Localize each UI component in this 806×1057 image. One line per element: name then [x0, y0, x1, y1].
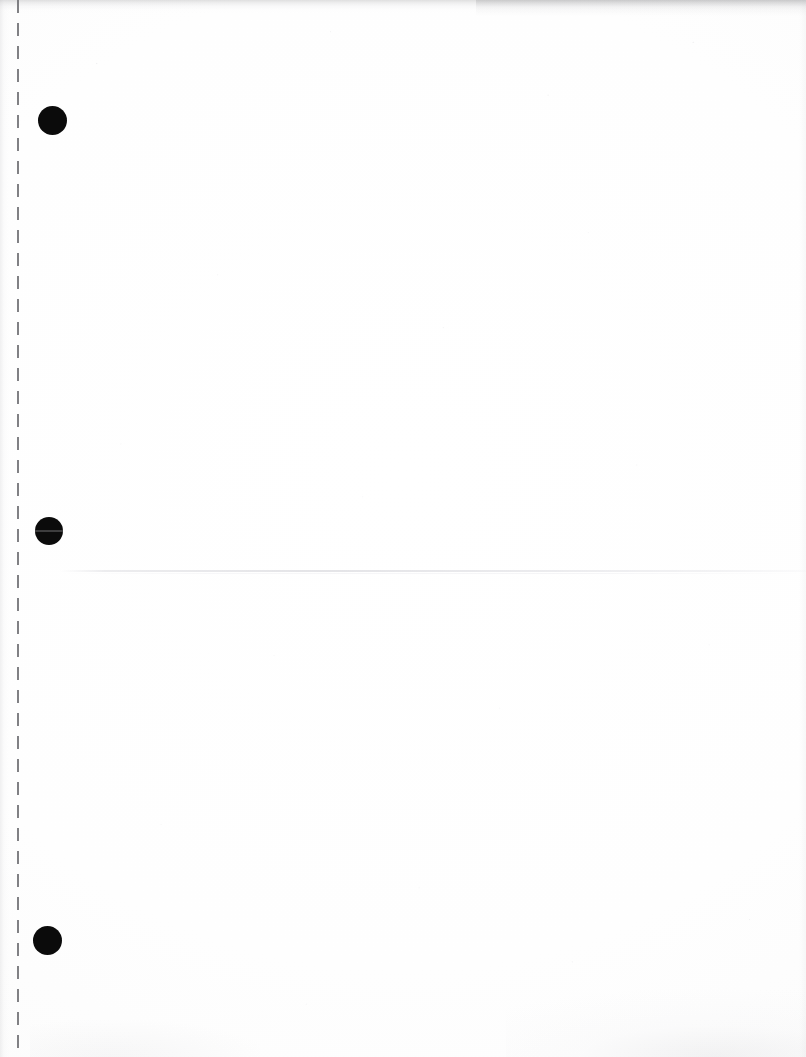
- top-right-scan-shadow: [476, 0, 806, 16]
- punch-hole-2: [35, 517, 63, 545]
- right-edge-scan-shadow: [799, 0, 806, 1057]
- punch-hole-3: [33, 926, 62, 955]
- perforation-dashed-line: [17, 0, 19, 1057]
- scanned-page: [0, 0, 806, 1057]
- left-edge-scan-shadow: [0, 0, 9, 1057]
- page-body-text: [90, 40, 766, 1017]
- punch-hole-2-fold-seam: [35, 530, 63, 532]
- punch-hole-1: [38, 106, 67, 135]
